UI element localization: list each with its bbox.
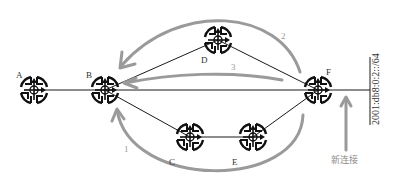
route-1-label: 1	[124, 144, 129, 154]
route-1-arrow	[117, 110, 303, 171]
route-2-label: 2	[281, 31, 286, 41]
router-d-label: D	[201, 55, 208, 65]
router-a-label: A	[16, 70, 23, 80]
router-icon	[92, 77, 118, 103]
new-connection-label: 新连接	[331, 154, 358, 165]
link-e-f	[253, 90, 318, 137]
router-f-label: F	[326, 67, 331, 77]
router-e-label: E	[232, 157, 238, 167]
router-a: A	[16, 70, 47, 103]
router-c: C	[169, 124, 203, 167]
router-d: D	[201, 27, 231, 65]
route-3-arrow	[125, 74, 282, 83]
router-icon	[177, 124, 203, 150]
network-topology-diagram: 1 2 3 A B C D E F 2001:db8:0:2::/64 新连接	[0, 0, 394, 185]
router-e: E	[232, 124, 266, 167]
network-prefix-label: 2001:db8:0:2::/64	[370, 53, 381, 125]
router-b-label: B	[86, 70, 92, 80]
router-c-label: C	[169, 157, 175, 167]
router-icon	[305, 77, 331, 103]
router-icon	[205, 27, 231, 53]
router-icon	[240, 124, 266, 150]
router-icon	[21, 77, 47, 103]
route-3-label: 3	[231, 62, 236, 72]
